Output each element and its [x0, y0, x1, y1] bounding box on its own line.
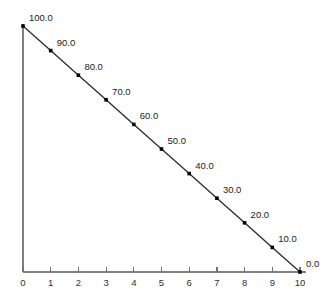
data-point-marker — [21, 24, 25, 28]
data-point-marker — [215, 196, 219, 200]
data-point-label: 80.0 — [84, 61, 103, 72]
data-point-marker — [77, 73, 81, 77]
chart-screenshot: 012345678910 100.090.080.070.060.050.040… — [0, 0, 336, 307]
data-point-label: 10.0 — [278, 233, 297, 244]
axes-group — [23, 24, 306, 272]
data-point-label: 30.0 — [223, 184, 242, 195]
line-chart: 012345678910 100.090.080.070.060.050.040… — [0, 0, 336, 307]
x-tick-label: 10 — [295, 277, 306, 288]
data-point-label: 40.0 — [195, 160, 214, 171]
data-point-marker — [271, 246, 275, 250]
x-tick-label: 5 — [159, 277, 164, 288]
data-point-marker — [132, 123, 136, 127]
data-point-label: 100.0 — [29, 12, 53, 23]
data-point-label: 0.0 — [306, 258, 319, 269]
data-point-label: 50.0 — [168, 135, 187, 146]
x-tick-label: 8 — [242, 277, 247, 288]
data-point-marker — [160, 147, 164, 151]
data-point-marker — [187, 172, 191, 176]
data-point-marker — [104, 98, 108, 102]
x-axis-ticks — [23, 267, 300, 272]
x-tick-label: 9 — [270, 277, 275, 288]
x-tick-label: 2 — [76, 277, 81, 288]
data-point-label: 90.0 — [57, 37, 75, 48]
x-tick-label: 7 — [214, 277, 219, 288]
x-tick-label: 3 — [103, 277, 108, 288]
data-point-label: 60.0 — [140, 110, 159, 121]
data-point-marker — [298, 270, 302, 274]
data-point-marker — [243, 221, 247, 225]
x-tick-label: 1 — [48, 277, 53, 288]
x-tick-label: 6 — [187, 277, 192, 288]
data-point-labels: 100.090.080.070.060.050.040.030.020.010.… — [29, 12, 319, 269]
data-point-marker — [49, 49, 53, 53]
x-tick-label: 0 — [20, 277, 25, 288]
x-tick-label: 4 — [131, 277, 136, 288]
data-point-label: 20.0 — [251, 209, 270, 220]
data-point-label: 70.0 — [112, 86, 131, 97]
x-axis-tick-labels: 012345678910 — [20, 277, 305, 288]
